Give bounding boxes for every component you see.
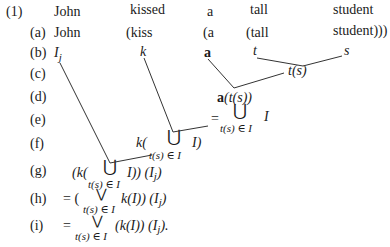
- branch-ts-to-d: [234, 73, 284, 88]
- branch-e-to-f: [173, 126, 208, 132]
- branch-verb-to-f: [144, 58, 173, 132]
- derivation-tree-branches: [0, 0, 390, 247]
- branch-adj-to-ts: [257, 58, 303, 66]
- branch-det-to-d: [208, 59, 234, 88]
- branch-f-to-g: [110, 155, 152, 163]
- branch-subject-to-g: [60, 63, 110, 163]
- branch-noun-to-ts: [303, 56, 342, 66]
